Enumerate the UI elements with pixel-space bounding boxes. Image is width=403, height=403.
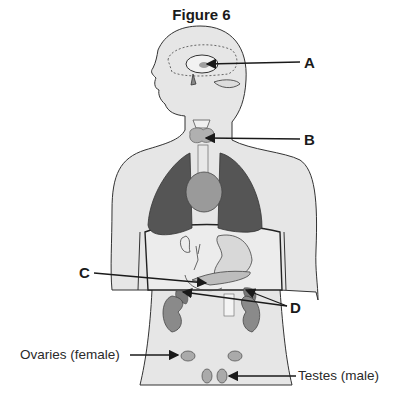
label-d: D: [290, 299, 301, 316]
label-testes: Testes (male): [298, 368, 379, 383]
label-ovaries: Ovaries (female): [20, 347, 120, 362]
label-c: C: [79, 264, 90, 281]
label-b: B: [304, 131, 315, 148]
human-body-diagram: [0, 0, 403, 403]
label-a: A: [304, 54, 315, 71]
